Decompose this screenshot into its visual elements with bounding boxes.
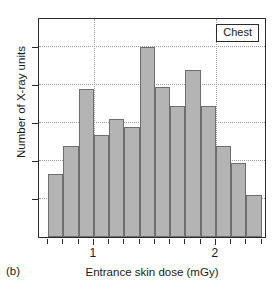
x-axis-tick-minor (184, 239, 185, 244)
histogram-bar (79, 89, 94, 237)
x-axis-label: Entrance skin dose (mGy) (38, 266, 266, 278)
x-axis-tick-minor (230, 239, 231, 244)
x-axis-tick-minor (123, 239, 124, 244)
histogram-bar (185, 70, 200, 237)
histogram-bar (109, 119, 124, 237)
panel-label: (b) (6, 265, 20, 277)
histogram-bar (48, 174, 63, 237)
x-axis-tick-major (93, 239, 94, 245)
x-axis-tick-major (215, 239, 216, 245)
y-axis-tick (32, 85, 38, 86)
histogram-bar (216, 146, 231, 237)
y-axis-tick (32, 123, 38, 124)
x-axis-ticks (38, 239, 266, 245)
x-axis-tick-minor (47, 239, 48, 244)
histogram-bar (201, 106, 216, 237)
y-axis-tick (32, 47, 38, 48)
x-axis-tick-minor (261, 239, 262, 244)
x-axis-tick-minor (78, 239, 79, 244)
x-axis-tick-minor (245, 239, 246, 244)
x-axis-tick-minor (169, 239, 170, 244)
x-axis-tick-minor (139, 239, 140, 244)
histogram-bars (39, 19, 265, 237)
x-axis-ticklabels: 12 (38, 246, 266, 262)
histogram-bar (63, 146, 78, 237)
x-axis-ticklabel: 2 (211, 246, 218, 260)
y-axis-tick (32, 199, 38, 200)
plot-area: Chest (38, 18, 266, 238)
x-axis-tick-minor (62, 239, 63, 244)
histogram-bar (170, 106, 185, 237)
y-axis-label: Number of X-ray units (15, 17, 27, 187)
legend-box: Chest (216, 24, 259, 42)
figure: Chest Number of X-ray units 12 Entrance … (0, 0, 280, 289)
y-axis-tick (32, 161, 38, 162)
histogram-bar (155, 87, 170, 237)
histogram-bar (231, 163, 246, 237)
legend-label: Chest (223, 26, 252, 38)
x-axis-tick-minor (200, 239, 201, 244)
histogram-bar (140, 47, 155, 237)
histogram-bar (94, 135, 109, 237)
x-axis-ticklabel: 1 (90, 246, 97, 260)
x-axis-tick-minor (108, 239, 109, 244)
histogram-bar (246, 195, 261, 237)
y-axis-ticks (32, 18, 38, 238)
x-axis-tick-minor (154, 239, 155, 244)
histogram-bar (124, 127, 139, 237)
